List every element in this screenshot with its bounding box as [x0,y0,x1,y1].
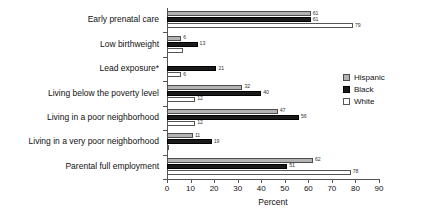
bar-group: 1119 [167,133,379,151]
bar-value-label: 13 [200,40,206,46]
bar-value-label: 6 [183,71,186,77]
bar-row: 47 [167,109,379,114]
bar-row: 62 [167,158,379,163]
y-axis-tick [163,32,167,33]
x-axis-tick-label: 90 [375,184,384,193]
bar-chart: Early prenatal careLow birthweightLead e… [0,0,431,216]
category-label: Parental full employment [65,162,159,171]
bar-hispanic [167,36,181,41]
bar-value-label: 78 [353,168,359,174]
bar-white [167,97,195,102]
x-axis-tick [285,179,286,183]
y-axis-tick [163,81,167,82]
bar-value-label: 6 [183,34,186,40]
bar-value-label: 11 [195,132,200,138]
bar-row [167,48,379,53]
bar-row: 51 [167,164,379,169]
legend-label: White [354,97,374,106]
bar-value-label: 79 [355,22,361,28]
bar-white [167,121,195,126]
x-axis-tick [167,179,168,183]
legend: HispanicBlackWhite [343,72,385,108]
bar-hispanic [167,133,193,138]
bar-row: 61 [167,11,379,16]
bar-group: 475612 [167,109,379,127]
bar-black [167,91,261,96]
legend-item-hispanic[interactable]: Hispanic [343,72,385,83]
x-axis-tick [308,179,309,183]
x-axis-tick-label: 0 [165,184,169,193]
category-label: Low birthweight [100,40,159,49]
y-axis-tick [163,130,167,131]
bar-value-label: 47 [280,107,286,113]
bar-group: 613 [167,36,379,54]
bar-group: 625178 [167,158,379,176]
bar-black [167,17,311,22]
bar-value-label: 40 [263,89,269,95]
x-axis-tick [261,179,262,183]
bar-white [167,145,169,150]
x-axis-tick-label: 10 [186,184,195,193]
bar-value-label: 61 [313,16,319,22]
bar-value-label: 12 [197,119,203,125]
bar-value-label: 32 [244,83,250,89]
bar-white [167,48,183,53]
bar-black [167,42,198,47]
x-axis-tick-label: 20 [210,184,219,193]
x-axis-tick-label: 50 [280,184,289,193]
legend-item-white[interactable]: White [343,96,385,107]
bar-black [167,66,216,71]
y-axis-tick [163,155,167,156]
bar-hispanic [167,109,278,114]
bar-white [167,72,181,77]
legend-item-black[interactable]: Black [343,84,385,95]
bar-white [167,23,353,28]
bar-row: 61 [167,17,379,22]
bar-row: 12 [167,121,379,126]
bar-row: 11 [167,133,379,138]
legend-swatch-icon [343,98,350,105]
legend-swatch-icon [343,86,350,93]
bar-value-label: 51 [289,162,295,168]
category-label: Living below the poverty level [48,89,159,98]
legend-label: Black [354,85,374,94]
bar-black [167,115,299,120]
legend-label: Hispanic [354,73,385,82]
category-axis-labels: Early prenatal careLow birthweightLead e… [0,8,163,179]
y-axis-tick [163,57,167,58]
x-axis-tick-label: 40 [257,184,266,193]
bar-value-label: 56 [301,113,307,119]
bar-row: 78 [167,170,379,175]
bar-group: 616179 [167,11,379,29]
category-label: Living in a poor neighborhood [47,113,159,122]
category-label: Living in a very poor neighborhood [29,137,159,146]
bar-value-label: 21 [218,65,224,71]
bar-row: 13 [167,42,379,47]
y-axis-tick [163,106,167,107]
x-axis-title: Percent [167,197,379,207]
x-axis-tick-label: 70 [327,184,336,193]
bar-black [167,139,212,144]
bar-value-label: 12 [197,95,203,101]
bar-row [167,145,379,150]
category-label: Early prenatal care [88,15,159,24]
bar-row [167,60,379,65]
bar-hispanic [167,85,242,90]
legend-swatch-icon [343,74,350,81]
x-axis-tick [214,179,215,183]
bar-row: 19 [167,139,379,144]
x-axis-tick [238,179,239,183]
x-axis-tick-label: 30 [233,184,242,193]
x-axis-tick [379,179,380,183]
x-axis-tick [191,179,192,183]
bar-row: 21 [167,66,379,71]
bar-hispanic [167,11,311,16]
bar-value-label: 19 [214,138,220,144]
x-axis-tick-label: 60 [304,184,313,193]
bar-white [167,170,351,175]
x-axis-tick-label: 80 [351,184,360,193]
bar-black [167,164,287,169]
x-axis-tick [332,179,333,183]
x-axis-line [167,179,379,180]
x-axis-tick [355,179,356,183]
